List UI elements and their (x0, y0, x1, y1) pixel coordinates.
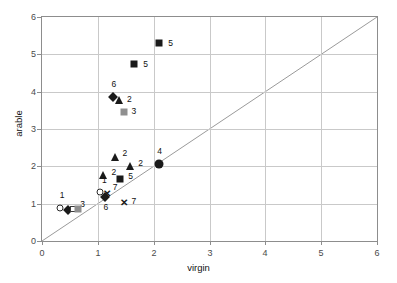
data-point-circle-filled (155, 160, 164, 169)
x-tick-label: 0 (39, 248, 44, 258)
chart-root: 55623222541✕76✕713 0123456 0123456 virgi… (0, 0, 397, 283)
clipped-title-strip (0, 0, 397, 9)
y-tick-mark (37, 129, 41, 130)
data-point-label: 5 (168, 38, 173, 48)
data-point-label: 5 (128, 171, 133, 181)
data-point-label: 1 (102, 175, 107, 185)
data-point-square-filled (131, 60, 138, 67)
x-tick-label: 5 (318, 248, 323, 258)
x-tick-label: 6 (374, 248, 379, 258)
y-tick-label: 6 (22, 12, 36, 22)
x-tick-mark (265, 241, 266, 245)
y-tick-mark (37, 241, 41, 242)
gridline-horizontal (42, 54, 377, 55)
data-point-label: 4 (157, 146, 162, 156)
data-point-square-filled (156, 40, 163, 47)
plot-area: 55623222541✕76✕713 (41, 16, 378, 242)
data-point-label: 3 (132, 106, 137, 116)
y-tick-label: 0 (22, 236, 36, 246)
data-point-label: 2 (111, 167, 116, 177)
data-point-triangle-filled (111, 153, 119, 161)
y-tick-mark (37, 92, 41, 93)
data-point-triangle-filled (126, 162, 134, 170)
y-tick-label: 5 (22, 49, 36, 59)
y-tick-label: 3 (22, 124, 36, 134)
data-point-cross: ✕ (119, 198, 128, 207)
data-point-label: 2 (127, 94, 132, 104)
x-axis-title: virgin (0, 262, 397, 273)
data-point-circle-open (56, 205, 63, 212)
y-axis-title: arable (13, 94, 24, 154)
data-point-square-grey (74, 206, 81, 213)
x-tick-label: 1 (95, 248, 100, 258)
gridline-horizontal (42, 166, 377, 167)
gridline-horizontal (42, 204, 377, 205)
x-tick-label: 4 (262, 248, 267, 258)
x-tick-mark (321, 241, 322, 245)
y-tick-mark (37, 17, 41, 18)
y-tick-mark (37, 54, 41, 55)
y-tick-mark (37, 166, 41, 167)
data-point-label: 1 (60, 190, 65, 200)
data-point-label: 7 (113, 182, 118, 192)
x-tick-label: 3 (207, 248, 212, 258)
data-point-label: 6 (104, 202, 109, 212)
y-tick-label: 1 (22, 199, 36, 209)
x-tick-mark (377, 241, 378, 245)
x-tick-mark (42, 241, 43, 245)
data-point-label: 5 (143, 59, 148, 69)
gridline-horizontal (42, 92, 377, 93)
y-tick-label: 4 (22, 87, 36, 97)
data-point-label: 2 (138, 158, 143, 168)
data-point-triangle-filled (115, 96, 123, 104)
x-tick-mark (98, 241, 99, 245)
data-point-label: 2 (123, 148, 128, 158)
y-tick-mark (37, 204, 41, 205)
data-point-label: 7 (132, 196, 137, 206)
y-tick-label: 2 (22, 161, 36, 171)
data-point-label: 6 (111, 79, 116, 89)
x-tick-label: 2 (151, 248, 156, 258)
gridline-horizontal (42, 129, 377, 130)
x-tick-mark (210, 241, 211, 245)
x-tick-mark (154, 241, 155, 245)
data-point-square-grey (120, 109, 127, 116)
